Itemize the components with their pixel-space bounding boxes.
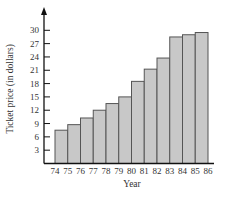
x-tick-label: 84 [178,166,188,176]
x-tick-label: 76 [76,166,86,176]
y-tick-label: 27 [30,39,40,49]
y-axis-ticks: 36912151821242730 [30,25,50,155]
y-tick-label: 24 [30,52,40,62]
bar-80 [132,81,145,163]
y-tick-label: 15 [30,92,40,102]
x-tick-label: 81 [140,166,149,176]
x-tick-label: 80 [127,166,137,176]
x-tick-label: 83 [165,166,175,176]
y-tick-label: 9 [35,119,40,129]
bars-group [55,33,208,164]
bar-85 [195,33,208,164]
x-tick-label: 86 [204,166,214,176]
y-tick-label: 3 [35,145,40,155]
bar-82 [157,58,170,163]
x-tick-label: 74 [51,166,61,176]
x-axis-title: Year [123,179,141,189]
x-tick-label: 77 [89,166,99,176]
x-tick-label: 79 [114,166,124,176]
x-tick-label: 85 [191,166,201,176]
y-tick-label: 21 [30,65,39,75]
x-tick-label: 78 [102,166,112,176]
x-tick-label: 82 [153,166,162,176]
y-axis-arrow-icon [41,7,47,15]
y-axis-title: Ticket price (in dollars) [5,44,16,134]
x-tick-label: 75 [63,166,73,176]
y-tick-label: 30 [30,25,40,35]
bar-78 [106,104,119,164]
x-axis-ticks: 74757677787980818283848586 [51,166,214,176]
bar-74 [55,130,68,163]
bar-75 [68,125,81,164]
y-tick-label: 12 [30,105,39,115]
ticket-price-bar-chart: 36912151821242730 7475767778798081828384… [0,0,246,202]
bar-76 [81,118,94,164]
bar-81 [144,69,157,163]
bar-77 [93,110,106,163]
bar-79 [119,97,132,164]
y-tick-label: 6 [35,132,40,142]
bar-83 [170,37,183,164]
bar-84 [183,35,196,164]
y-tick-label: 18 [30,79,40,89]
